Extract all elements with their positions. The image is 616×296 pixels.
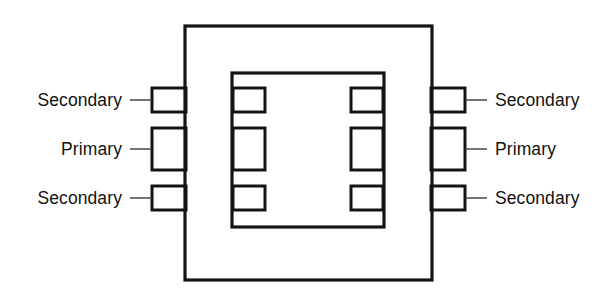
left-inner-winding-block-1 bbox=[233, 128, 265, 170]
right-inner-winding-group bbox=[351, 88, 383, 210]
right-leader-line-group bbox=[465, 100, 487, 198]
right-inner-winding-block-2 bbox=[351, 186, 383, 210]
right-winding-tab-0 bbox=[431, 88, 465, 112]
label-left-secondary-top: Secondary bbox=[37, 90, 122, 110]
right-winding-tab-2 bbox=[431, 186, 465, 210]
inner-core-window-rectangle bbox=[232, 73, 384, 227]
right-inner-winding-block-0 bbox=[351, 88, 383, 112]
left-inner-winding-block-0 bbox=[233, 88, 265, 112]
left-winding-tab-group bbox=[152, 88, 186, 210]
left-leader-line-group bbox=[130, 100, 152, 198]
diagram-canvas: Secondary Primary Secondary Secondary Pr… bbox=[0, 0, 616, 296]
left-inner-winding-group bbox=[233, 88, 265, 210]
label-right-secondary-top: Secondary bbox=[495, 90, 580, 110]
label-left-primary: Primary bbox=[61, 139, 122, 159]
left-winding-tab-1 bbox=[152, 128, 186, 170]
left-winding-tab-0 bbox=[152, 88, 186, 112]
left-winding-tab-2 bbox=[152, 186, 186, 210]
label-right-primary: Primary bbox=[495, 139, 556, 159]
label-right-secondary-bottom: Secondary bbox=[495, 188, 580, 208]
right-winding-tab-group bbox=[431, 88, 465, 210]
right-inner-winding-block-1 bbox=[351, 128, 383, 170]
right-winding-tab-1 bbox=[431, 128, 465, 170]
transformer-winding-diagram: Secondary Primary Secondary Secondary Pr… bbox=[0, 0, 616, 296]
outer-core-rectangle bbox=[185, 26, 432, 280]
label-left-secondary-bottom: Secondary bbox=[37, 188, 122, 208]
left-inner-winding-block-2 bbox=[233, 186, 265, 210]
